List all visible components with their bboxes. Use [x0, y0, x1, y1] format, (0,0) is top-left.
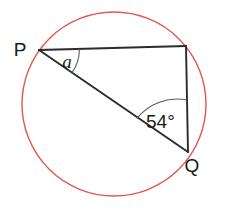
angle-label-54-degrees: 54° — [146, 111, 175, 132]
geometry-figure: P Q a 54° — [0, 0, 225, 217]
segment-PR — [39, 46, 186, 50]
geometry-canvas: P Q a 54° — [0, 0, 225, 217]
angle-arc-at-P — [71, 49, 79, 73]
vertex-label-p: P — [14, 39, 27, 60]
circumscribed-circle — [22, 12, 206, 196]
segment-RQ — [186, 46, 188, 152]
vertex-label-q: Q — [185, 155, 200, 176]
angle-label-a: a — [62, 51, 72, 72]
